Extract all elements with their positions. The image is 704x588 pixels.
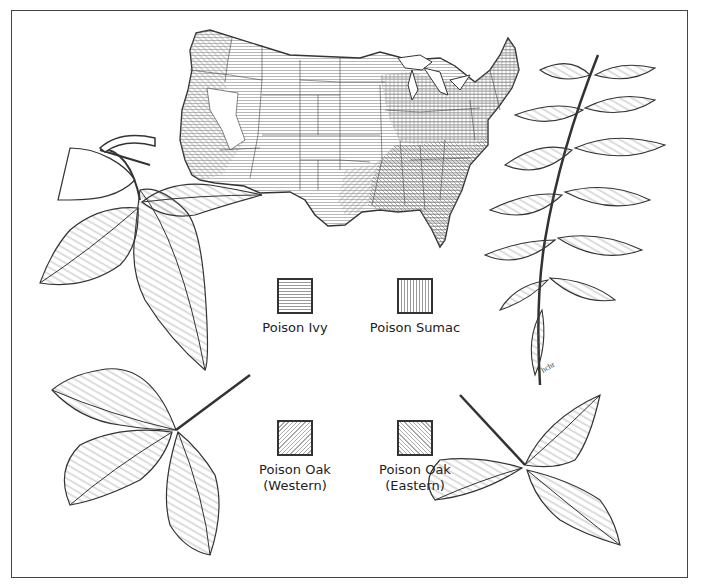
illustration-canvas: hchr (0, 0, 704, 588)
legend-label: Poison Ivy (250, 320, 340, 336)
legend-sublabel: (Eastern) (365, 478, 465, 494)
legend-sublabel: (Western) (250, 478, 340, 494)
legend-poison-oak-western: Poison Oak (Western) (250, 420, 340, 494)
legend-label: Poison Sumac (365, 320, 465, 336)
legend-label: Poison Oak (250, 462, 340, 478)
legend-poison-oak-eastern: Poison Oak (Eastern) (365, 420, 465, 494)
pattern-swatch-diagonal-left (397, 420, 433, 456)
pattern-swatch-vertical (397, 278, 433, 314)
pattern-swatch-horizontal (277, 278, 313, 314)
legend-poison-sumac: Poison Sumac (365, 278, 465, 336)
legend-poison-ivy: Poison Ivy (250, 278, 340, 336)
western-poison-oak-illustration (52, 369, 250, 555)
legend-label: Poison Oak (365, 462, 465, 478)
us-range-map (180, 30, 519, 247)
pattern-swatch-diagonal-right (277, 420, 313, 456)
poison-sumac-illustration: hchr (485, 55, 665, 385)
artist-signature: hchr (540, 360, 557, 375)
